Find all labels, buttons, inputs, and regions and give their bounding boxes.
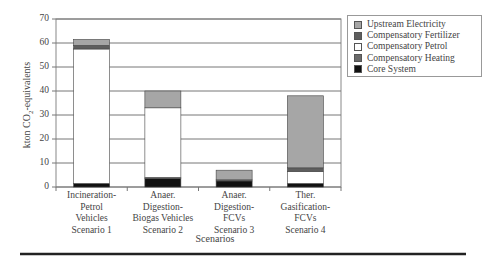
legend-swatch-icon	[354, 43, 362, 51]
y-tick-label: 50	[29, 61, 49, 71]
x-category-label: Ther.Gasification-FCVsScenario 4	[260, 190, 350, 236]
legend-swatch-icon	[354, 65, 362, 73]
bar-segment	[74, 183, 110, 187]
legend-item-upstream-electricity: Upstream Electricity	[354, 19, 475, 30]
bar-segment	[74, 45, 110, 49]
bar-scenario-3	[216, 170, 252, 187]
y-tick-label: 70	[29, 13, 49, 23]
y-tick-label: 20	[29, 133, 49, 143]
bar-segment	[74, 39, 110, 45]
stacked-bar-chart: kton CO2-equivalents 010203040506070 Inc…	[0, 0, 486, 269]
legend-swatch-icon	[354, 54, 362, 62]
legend-swatch-icon	[354, 32, 362, 40]
legend-item-compensatory-petrol: Compensatory Petrol	[354, 41, 475, 52]
bar-scenario-2	[145, 91, 181, 187]
bar-scenario-1	[74, 39, 110, 187]
x-axis-label: Scenarios	[150, 233, 280, 244]
bar-segment	[287, 168, 323, 172]
bar-scenario-4	[287, 96, 323, 187]
bar-segment	[287, 171, 323, 183]
bar-segment	[74, 49, 110, 183]
bar-segment	[145, 179, 181, 187]
bar-segment	[216, 170, 252, 180]
y-tick-label: 10	[29, 157, 49, 167]
bar-segment	[287, 183, 323, 187]
y-tick-label: 30	[29, 109, 49, 119]
y-tick-label: 60	[29, 37, 49, 47]
bar-segment	[287, 96, 323, 168]
bar-segment	[145, 108, 181, 178]
legend-item-compensatory-heating: Compensatory Heating	[354, 53, 475, 64]
legend-item-compensatory-fertilizer: Compensatory Fertilizer	[354, 30, 475, 41]
legend: Upstream Electricity Compensatory Fertil…	[347, 15, 482, 77]
y-tick-label: 40	[29, 85, 49, 95]
bar-segment	[145, 91, 181, 108]
legend-swatch-icon	[354, 21, 362, 29]
legend-item-core-system: Core System	[354, 64, 475, 75]
bar-segment	[216, 181, 252, 187]
